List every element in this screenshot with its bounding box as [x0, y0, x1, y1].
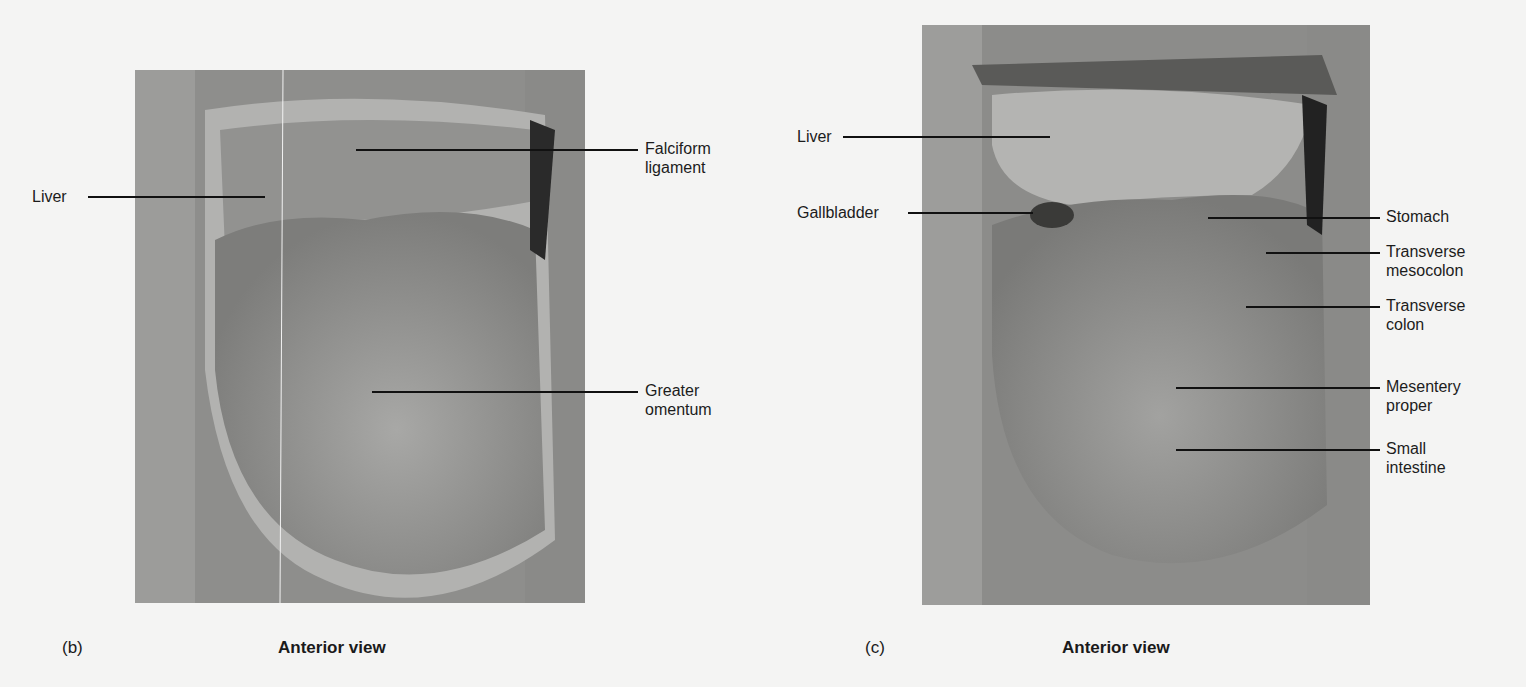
leader-line-transverse-mesocolon: [1266, 252, 1380, 254]
leader-line-stomach: [1208, 217, 1380, 219]
label-liver-b: Liver: [32, 187, 67, 206]
label-mesentery-proper: Mesentery proper: [1386, 377, 1461, 415]
label-liver-c: Liver: [797, 127, 832, 146]
photo-panel-c: [922, 25, 1370, 605]
label-stomach: Stomach: [1386, 207, 1449, 226]
label-transverse-colon: Transverse colon: [1386, 296, 1465, 334]
leader-line-small-intestine: [1176, 449, 1380, 451]
label-transverse-mesocolon: Transverse mesocolon: [1386, 242, 1465, 280]
leader-line-gallbladder: [908, 212, 1033, 214]
leader-line-falciform: [356, 149, 638, 151]
leader-line-greater-omentum: [372, 391, 638, 393]
label-gallbladder: Gallbladder: [797, 203, 879, 222]
leader-line-liver-c: [843, 136, 1050, 138]
panel-letter-c: (c): [865, 638, 885, 658]
caption-anterior-view-c: Anterior view: [1062, 638, 1170, 658]
leader-line-liver-b: [88, 196, 265, 198]
cadaver-abdomen-viscera-image: [922, 25, 1370, 605]
leader-line-mesentery-proper: [1176, 387, 1380, 389]
label-greater-omentum: Greater omentum: [645, 381, 712, 419]
label-small-intestine: Small intestine: [1386, 439, 1446, 477]
panel-letter-b: (b): [62, 638, 83, 658]
caption-anterior-view-b: Anterior view: [278, 638, 386, 658]
leader-line-transverse-colon: [1246, 306, 1380, 308]
label-falciform-ligament: Falciform ligament: [645, 139, 711, 177]
